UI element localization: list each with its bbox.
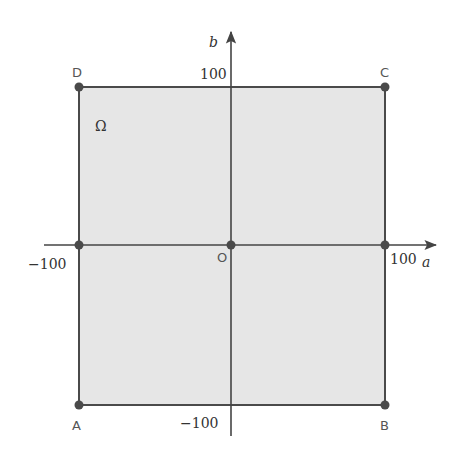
tick-b-neg-100: −100 — [180, 415, 218, 431]
b-axis-label: b — [209, 34, 218, 50]
point-neg-a-axis — [75, 241, 84, 250]
label-a: A — [72, 418, 81, 433]
point-pos-a-axis — [381, 241, 390, 250]
label-origin: O — [217, 250, 227, 265]
point-b — [381, 401, 390, 410]
point-a — [75, 401, 84, 410]
point-c — [381, 83, 390, 92]
a-axis-label: a — [422, 254, 430, 270]
label-d: D — [72, 65, 82, 80]
tick-b-100: 100 — [200, 66, 227, 82]
point-d — [75, 83, 84, 92]
label-c: C — [380, 65, 389, 80]
point-origin — [227, 241, 236, 250]
label-b: B — [380, 418, 389, 433]
region-label-omega: Ω — [95, 118, 107, 134]
square-domain-diagram: D C A B O Ω b a 100 −100 100 −100 — [0, 0, 458, 465]
tick-a-neg-100: −100 — [28, 256, 66, 272]
tick-a-100: 100 — [390, 251, 417, 267]
